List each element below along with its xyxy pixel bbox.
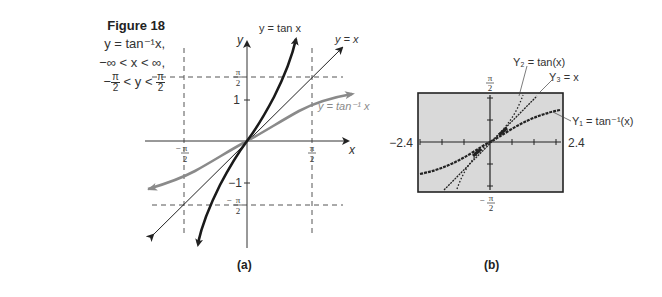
curve-labels: y = tan x y = x y = tan⁻¹ x (259, 22, 370, 112)
svg-text:2: 2 (183, 154, 188, 164)
svg-text:π: π (488, 73, 493, 83)
svg-text:−: − (479, 195, 484, 205)
svg-text:Y₂ = tan(x): Y₂ = tan(x) (513, 56, 565, 68)
sublabel-a: (a) (237, 258, 252, 272)
svg-text:π: π (236, 67, 241, 77)
svg-text:−1: −1 (228, 176, 242, 190)
svg-text:π: π (310, 143, 315, 153)
svg-text:−2.4: −2.4 (389, 136, 413, 150)
svg-text:−: − (226, 195, 231, 205)
svg-text:2: 2 (489, 203, 494, 213)
svg-text:2: 2 (236, 78, 241, 88)
svg-text:y: y (236, 33, 244, 47)
svg-text:−: − (175, 143, 180, 153)
svg-text:y = tan⁻¹ x: y = tan⁻¹ x (317, 100, 370, 112)
graph-a: π 2 − π 2 − π 2 π 2 1 −1 x y y = tan (145, 22, 370, 248)
tan-bottom-arrow (198, 141, 247, 245)
svg-text:2: 2 (488, 83, 493, 93)
svg-text:2: 2 (310, 154, 315, 164)
sublabel-b: (b) (484, 258, 499, 272)
svg-text:x: x (348, 143, 356, 157)
svg-text:y = x: y = x (334, 33, 359, 45)
graph-b: −2.4 2.4 π 2 − π 2 Y₂ = tan(x) Y₃ = x Y₁… (389, 56, 633, 213)
svg-text:π: π (489, 193, 494, 203)
svg-text:Y₃ = x: Y₃ = x (549, 71, 579, 83)
svg-text:1: 1 (233, 93, 240, 107)
svg-text:2: 2 (236, 206, 241, 216)
svg-text:2.4: 2.4 (568, 136, 585, 150)
svg-text:Y₁ = tan⁻¹(x): Y₁ = tan⁻¹(x) (572, 115, 633, 127)
svg-text:π: π (183, 143, 188, 153)
figure-canvas: π 2 − π 2 − π 2 π 2 1 −1 x y y = tan (0, 0, 662, 297)
svg-text:y = tan x: y = tan x (259, 22, 301, 34)
svg-text:π: π (236, 195, 241, 205)
